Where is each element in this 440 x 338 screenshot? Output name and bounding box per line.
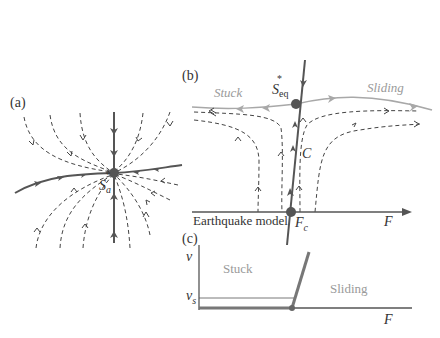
threshold-velocity-sub: s bbox=[192, 295, 196, 306]
stuck-region-label-c: Stuck bbox=[223, 262, 253, 275]
curve-c-label: C bbox=[302, 147, 311, 161]
saddle-eq-sup: * bbox=[276, 73, 281, 84]
saddle-eq-sub: eq bbox=[279, 88, 288, 99]
critical-force-label: Fc bbox=[295, 216, 308, 233]
threshold-velocity-label: vs bbox=[186, 289, 196, 306]
critical-force-symbol: F bbox=[295, 215, 304, 230]
force-axis-label-b: F bbox=[384, 215, 393, 229]
panel-c-force-velocity bbox=[199, 245, 412, 311]
panel-a-label: (a) bbox=[10, 96, 26, 110]
saddle-a-sub: a bbox=[106, 184, 111, 195]
saddle-eq-label: Seq* bbox=[272, 80, 293, 99]
earthquake-model-caption: Earthquake model bbox=[193, 214, 288, 227]
stuck-region-label-b: Stuck bbox=[214, 86, 242, 99]
phase-portrait-figure bbox=[0, 0, 440, 338]
sliding-region-label-b: Sliding bbox=[367, 81, 404, 94]
saddle-a-label: Sa* bbox=[99, 176, 116, 195]
critical-force-sub: c bbox=[304, 222, 308, 233]
panel-c-label: (c) bbox=[182, 232, 198, 246]
saddle-a-sup: * bbox=[105, 169, 110, 180]
velocity-axis-label: v bbox=[186, 250, 192, 264]
sliding-region-label-c: Sliding bbox=[330, 282, 368, 295]
force-axis-label-c: F bbox=[384, 313, 393, 327]
panel-b-label: (b) bbox=[182, 69, 198, 83]
saddle-node-eq bbox=[291, 99, 301, 109]
